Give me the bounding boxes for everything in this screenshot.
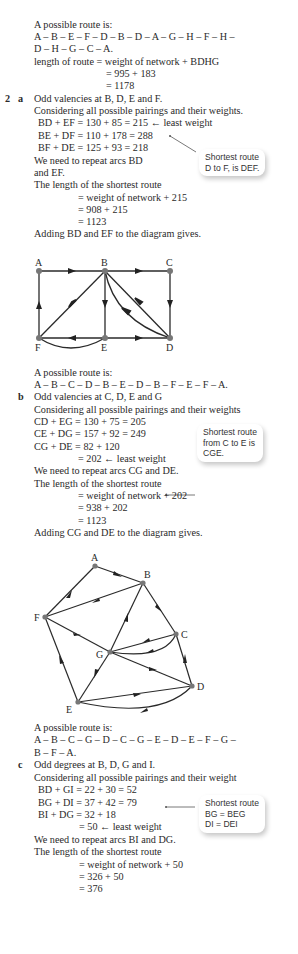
calc-line: = 376 [79, 883, 103, 895]
text-line: The length of the shortest route [34, 478, 162, 490]
pairing-line: CD + EG = 130 + 75 = 205 [34, 416, 146, 428]
node-label: D [197, 681, 204, 693]
callout-line: Shortest route [203, 427, 257, 438]
text-line: The length of the shortest route [34, 846, 162, 858]
network-diagram-b [45, 566, 192, 708]
pairing-line: BG + DI = 37 + 42 = 79 [38, 797, 137, 809]
pairing-line: BD + GI = 22 + 30 = 52 [38, 784, 137, 796]
calc-line: = weight of network + 202 [78, 490, 187, 502]
route-line: B – F – A. [34, 747, 76, 759]
node-label: C [181, 629, 188, 641]
text-line: Considering all possible pairings and th… [34, 404, 241, 416]
calc-line: = 50 ← least weight [79, 821, 162, 833]
callout-line: from C to E is [203, 438, 257, 449]
text-line: Adding CG and DE to the diagram gives. [34, 527, 203, 539]
part-letter-b: b [18, 391, 24, 403]
pairing-line: CG + DE = 82 + 120 [34, 441, 120, 453]
node-label: E [101, 342, 107, 354]
pairing-line: CE + DG = 157 + 92 = 249 [34, 428, 146, 440]
calc-line: = 938 + 202 [78, 502, 128, 514]
node-label: F [35, 342, 41, 354]
calc-line: = 1123 [78, 515, 106, 527]
calc-line: = 202 ← least weight [78, 453, 166, 465]
callout-c: Shortest route BG = BEG DI = DEI [199, 795, 265, 833]
route-intro: A possible route is: [34, 367, 112, 379]
part-letter-c: c [18, 759, 23, 771]
callout-leader [170, 136, 196, 152]
text-line: We need to repeat arcs BI and DG. [34, 834, 176, 846]
text-line: We need to repeat arcs CG and DE. [34, 465, 179, 477]
callout-b: Shortest route from C to E is CGE. [197, 424, 263, 462]
node-label: B [101, 257, 108, 269]
node-label: F [34, 612, 40, 624]
node-label: A [35, 257, 42, 269]
callout-line: CGE. [203, 448, 257, 459]
text-line: Odd degrees at B, D, G and I. [34, 759, 155, 771]
node-label: A [91, 552, 98, 564]
route-line: A – B – C – D – B – E – D – B – F – E – … [34, 379, 228, 391]
pairing-line: BI + DG = 32 + 18 [38, 809, 116, 821]
node-label: G [96, 649, 103, 661]
node-label: D [166, 342, 173, 354]
diagram-b-arrows [59, 571, 187, 713]
calc-line: = 326 + 50 [79, 871, 124, 883]
text-line: Considering all possible pairings and th… [34, 772, 237, 784]
node-label: B [144, 569, 151, 581]
node-label: E [66, 704, 72, 716]
text-line: Odd valencies at C, D, E and G [34, 391, 162, 403]
callout-line: Shortest route [205, 798, 259, 809]
node-label: C [166, 257, 173, 269]
calc-line: = weight of network + 50 [79, 859, 183, 871]
callout-line: DI = DEI [205, 819, 259, 830]
route-intro: A possible route is: [34, 722, 112, 734]
callout-line: BG = BEG [205, 809, 259, 820]
route-line: A – B – C – G – D – C – G – E – D – E – … [34, 734, 236, 746]
